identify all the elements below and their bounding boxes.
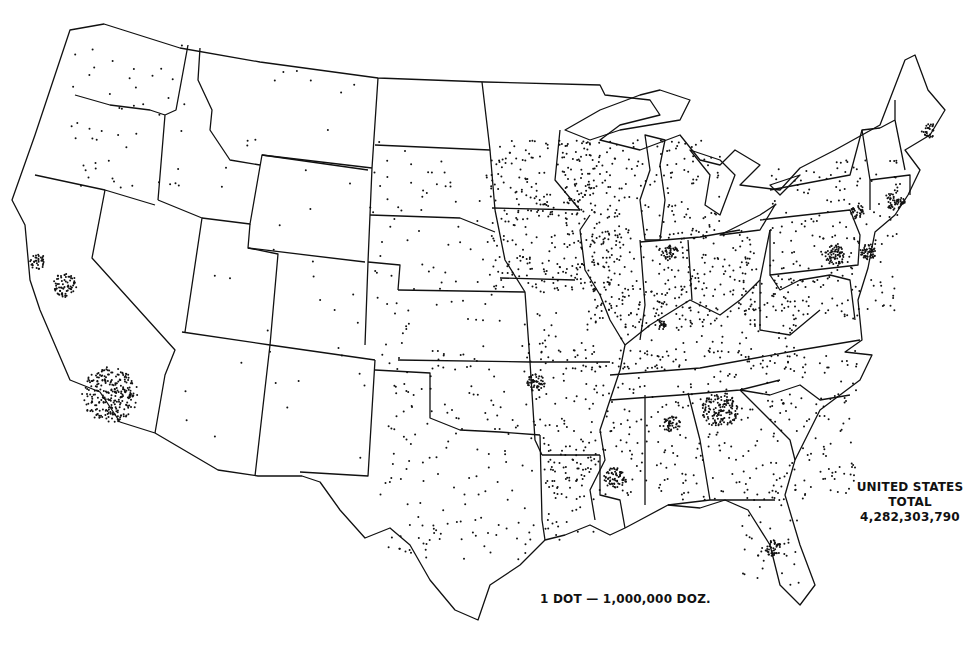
tx-east [540, 435, 545, 540]
ne-ia-mo [495, 210, 542, 455]
id-ut-wy [202, 155, 372, 224]
total-value: 4,282,303,790 [840, 510, 980, 525]
id-mt [198, 48, 260, 165]
dot-layer [29, 45, 934, 586]
al-ga [688, 393, 710, 500]
ny-east [862, 130, 870, 210]
dakota-line [375, 145, 490, 150]
wy-co [248, 248, 365, 262]
sd-ne [370, 215, 495, 232]
pa-outline [760, 210, 860, 275]
mississippi-river [580, 215, 625, 520]
total-line1: UNITED STATES [840, 480, 980, 495]
la-ms [600, 455, 625, 528]
lake-erie [720, 205, 775, 235]
mt-dakota [365, 78, 378, 345]
ne-ks [398, 290, 525, 292]
md-va-wv [760, 275, 855, 335]
tn-south [610, 380, 780, 400]
lake-huron [690, 150, 735, 215]
ia-north [492, 208, 580, 210]
wi-mi [555, 130, 580, 210]
us-dot-density-map [0, 0, 980, 645]
nc-sc [740, 385, 850, 400]
dot-legend: 1 DOT — 1,000,000 DOZ. [540, 592, 711, 606]
id-west [158, 45, 188, 200]
ia-south [500, 278, 575, 280]
nm-tx [300, 360, 375, 476]
or-ca-line [35, 175, 155, 205]
total-line2: TOTAL [840, 495, 980, 510]
in-oh [688, 240, 692, 300]
ut-co-az-nm [248, 224, 278, 476]
mt-south [262, 155, 368, 170]
mn-west [482, 82, 495, 210]
ok-panhandle [375, 370, 540, 435]
nv-ut [158, 200, 202, 332]
new-england [870, 100, 910, 195]
ky-tn [610, 340, 860, 375]
four-corners-east-west [182, 332, 375, 360]
us-total-label: UNITED STATES TOTAL 4,282,303,790 [840, 480, 980, 525]
state-boundaries [12, 24, 945, 620]
wa-or-line [75, 95, 165, 115]
ohio-river [625, 230, 770, 345]
lake-michigan [640, 135, 665, 240]
ks-ok [398, 360, 530, 362]
co-ks [368, 262, 400, 290]
